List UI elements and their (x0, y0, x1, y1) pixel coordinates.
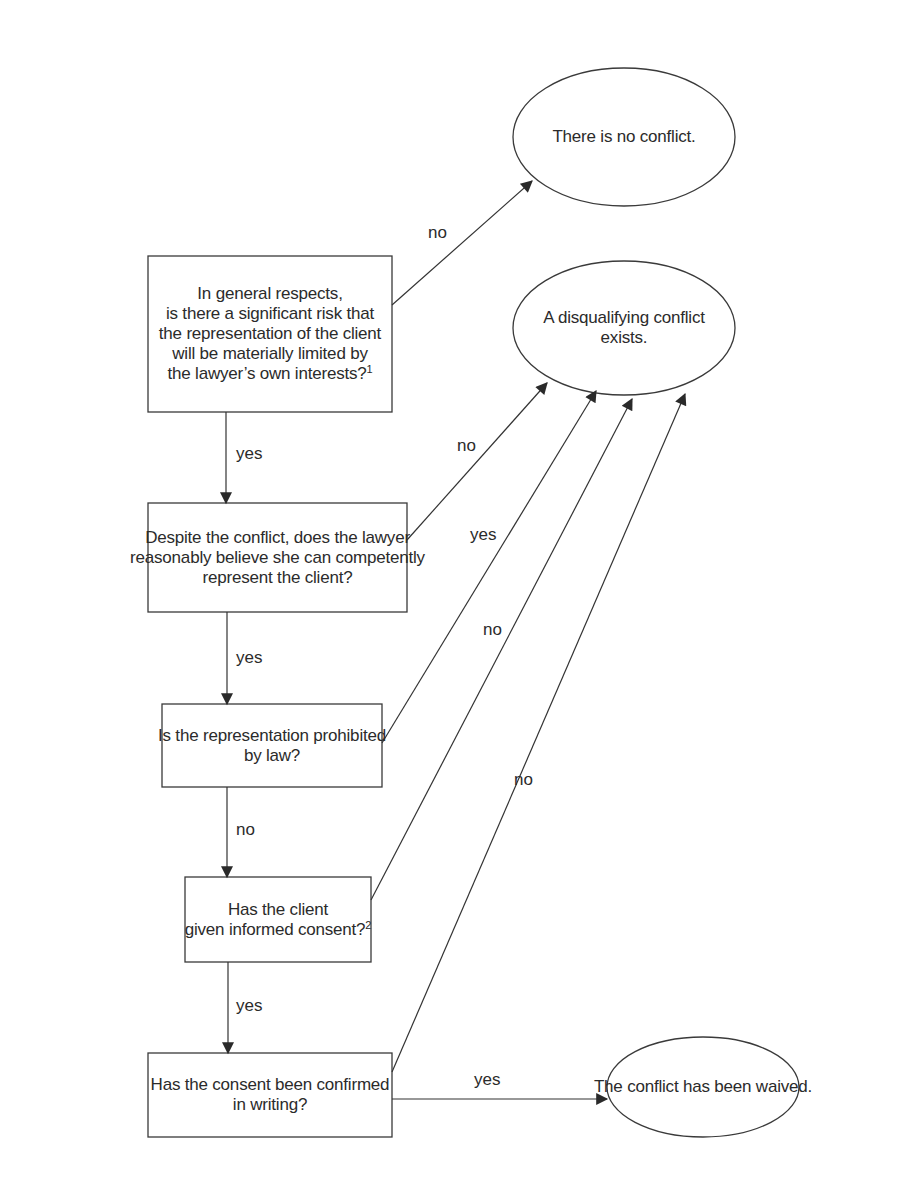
q1-line-last: the lawyer’s own interests?1 (168, 364, 373, 384)
arrow-q5-o2 (392, 394, 685, 1072)
flowchart: In general respects, is there a signific… (0, 0, 898, 1201)
q5-line: Has the consent been confirmed (151, 1075, 390, 1095)
outcome-no-conflict-text: There is no conflict. (513, 68, 735, 206)
arrow-q1-o1 (392, 181, 532, 305)
decision-q3-text: Is the representation prohibited by law? (162, 706, 382, 785)
outcome-waived-text: The conflict has been waived. (607, 1037, 799, 1137)
o2-line: exists. (601, 328, 648, 348)
q1-line: will be materially limited by (172, 344, 367, 364)
edge-label-q4-q5: yes (236, 996, 262, 1016)
q4-line: Has the client (228, 900, 328, 920)
edge-label-q1-q2: yes (236, 444, 262, 464)
footnote-1: 1 (367, 363, 373, 375)
q3-line: Is the representation prohibited (158, 726, 386, 746)
q2-line: Despite the conflict, does the lawyer (145, 528, 410, 548)
flowchart-shapes (0, 0, 898, 1201)
arrow-q2-o2 (407, 383, 547, 540)
q1-line: is there a significant risk that (166, 304, 374, 324)
o2-line: A disqualifying conflict (543, 308, 705, 328)
edge-label-q2-o2: no (457, 436, 476, 456)
outcome-disqualifying-text: A disqualifying conflict exists. (513, 261, 735, 395)
edge-label-q3-o2: yes (470, 525, 496, 545)
o1-line: There is no conflict. (552, 127, 695, 147)
decision-q4-text: Has the client given informed consent?2 (185, 879, 371, 960)
q5-line: in writing? (233, 1095, 307, 1115)
q3-line: by law? (244, 746, 300, 766)
q2-line: represent the client? (203, 568, 353, 588)
edge-label-q5-o2: no (514, 770, 533, 790)
edge-label-q4-o2: no (483, 620, 502, 640)
edge-label-q3-q4: no (236, 820, 255, 840)
edge-label-q1-o1: no (428, 223, 447, 243)
q4-line-last: given informed consent?2 (185, 920, 372, 940)
o3-line: The conflict has been waived. (594, 1077, 812, 1097)
edge-label-q5-o3: yes (474, 1070, 500, 1090)
q2-line: reasonably believe she can competently (130, 548, 425, 568)
q1-line: In general respects, (197, 284, 342, 304)
decision-q1-text: In general respects, is there a signific… (148, 258, 392, 410)
q1-line: the representation of the client (159, 324, 381, 344)
decision-q2-text: Despite the conflict, does the lawyer re… (148, 505, 407, 610)
footnote-2: 2 (365, 919, 371, 931)
decision-q5-text: Has the consent been confirmed in writin… (148, 1055, 392, 1135)
arrow-q4-o2 (371, 399, 632, 900)
edge-label-q2-q3: yes (236, 648, 262, 668)
